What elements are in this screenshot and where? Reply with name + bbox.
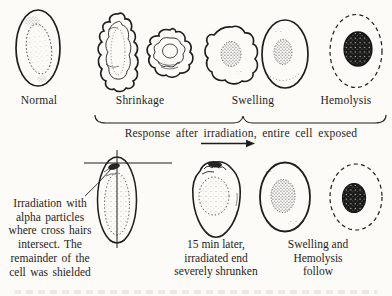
swelling-cell-1 [205, 26, 257, 84]
cropped-caption-remnant [14, 290, 378, 294]
shrunken-annotation-line: 15 min later, [163, 238, 269, 252]
follow-annotation-line: follow [267, 265, 369, 279]
swollen-cell-bottom [260, 163, 310, 232]
shielded-annotation-line: remainder of the [1, 252, 99, 266]
shielded-annotation-line: alpha particles [1, 211, 99, 225]
hemolysis-cell-top [330, 15, 382, 88]
shielded-annotation-line: Irradiation with [1, 197, 99, 211]
shrinkage-cell-2 [147, 29, 193, 77]
follow-annotation-line: Swelling and [267, 238, 369, 252]
exposure-caption: Response after irradiation, entire cell … [92, 126, 390, 140]
shielded-annotation: Irradiation with alpha particles where c… [1, 197, 99, 279]
label-shrinkage: Shrinkage [92, 93, 188, 107]
exposure-brace [95, 115, 386, 123]
shrunken-annotation-line: severely shrunken [163, 265, 269, 279]
shrunken-annotation: 15 min later, irradiated end severely sh… [163, 238, 269, 279]
shrunken-annotation-line: irradiated end [163, 252, 269, 266]
shielded-annotation-line: intersect. The [1, 238, 99, 252]
normal-cell [16, 10, 60, 86]
shielded-annotation-line: where cross hairs [1, 224, 99, 238]
direction-arrow-icon [201, 140, 255, 147]
label-hemolysis: Hemolysis [298, 93, 392, 107]
follow-annotation-line: Hemolysis [267, 252, 369, 266]
label-swelling: Swelling [205, 93, 301, 107]
swelling-cell-2 [262, 20, 308, 88]
textbook-figure: Normal Shrinkage Swelling Hemolysis Resp… [0, 0, 392, 296]
shrunken-end-cell [193, 161, 240, 237]
hemolyzed-cell-bottom [330, 164, 382, 230]
label-normal: Normal [0, 93, 78, 107]
shielded-annotation-line: cell was shielded [1, 266, 99, 280]
follow-annotation: Swelling and Hemolysis follow [267, 238, 369, 279]
shrinkage-cell-1 [98, 13, 138, 91]
